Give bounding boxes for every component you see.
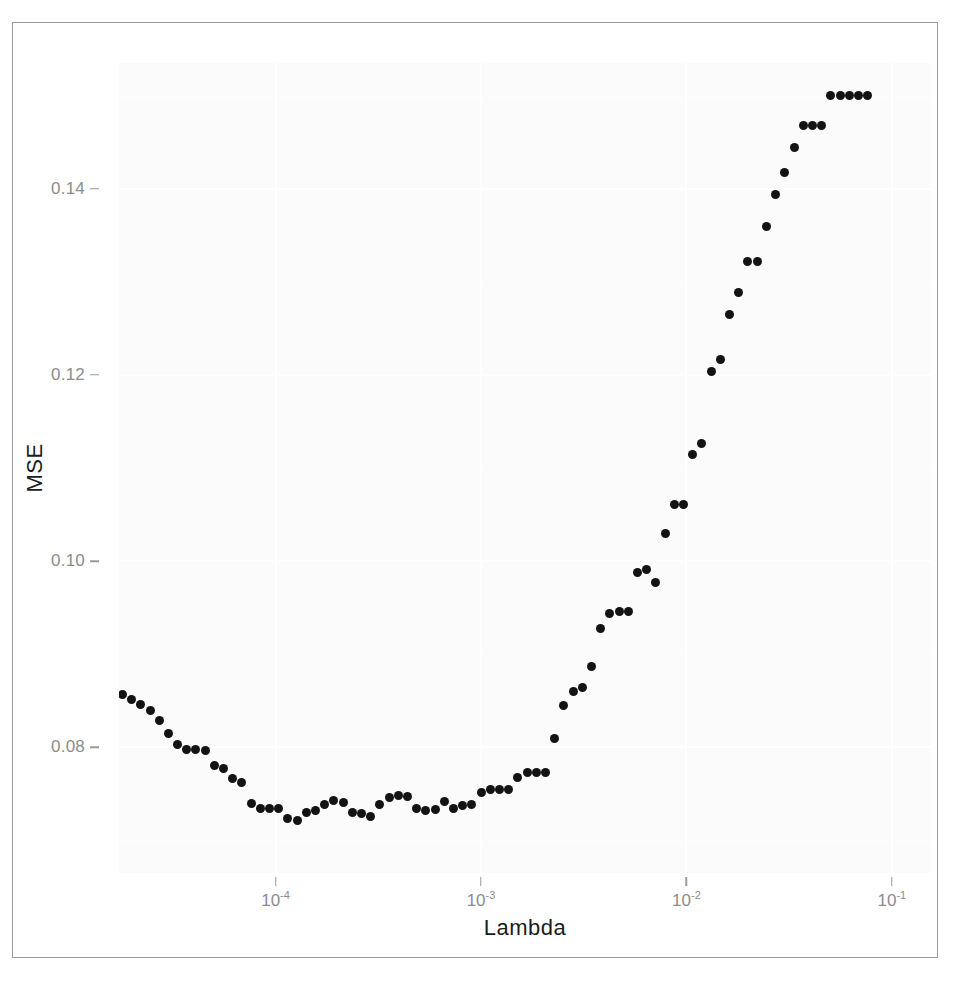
data-point: [164, 729, 173, 738]
data-point: [467, 800, 476, 809]
data-point: [716, 355, 725, 364]
data-point: [780, 168, 789, 177]
data-point: [486, 785, 495, 794]
y-tick-mark: [90, 747, 99, 749]
data-point: [615, 607, 624, 616]
data-point: [477, 788, 486, 797]
x-tick-base: 10: [878, 891, 897, 910]
figure-page: 0.080.100.120.14 MSE 10-410-310-210-1 La…: [0, 0, 956, 1005]
data-point: [421, 806, 430, 815]
data-point: [762, 222, 771, 231]
data-point: [725, 310, 734, 319]
x-tick-label: 10-4: [261, 891, 290, 911]
gridline-y-minor: [119, 468, 931, 469]
gridline-y-major: [119, 374, 931, 376]
data-point: [320, 800, 329, 809]
data-point: [348, 808, 357, 817]
data-point: [541, 768, 550, 777]
data-point: [605, 609, 614, 618]
data-point: [799, 121, 808, 130]
gridline-y-minor: [119, 840, 931, 841]
data-point: [550, 734, 559, 743]
data-point: [633, 568, 642, 577]
data-point: [670, 500, 679, 509]
x-tick-mark: [686, 877, 688, 886]
data-point: [357, 809, 366, 818]
data-point: [808, 121, 817, 130]
gridline-y-minor: [119, 96, 931, 97]
data-point: [688, 450, 697, 459]
gridline-y-major: [119, 560, 931, 562]
data-point: [191, 745, 200, 754]
x-tick-exponent: -4: [280, 889, 290, 901]
data-point: [366, 812, 375, 821]
data-point: [302, 808, 311, 817]
x-tick-base: 10: [261, 891, 280, 910]
gridline-x-major: [275, 63, 277, 873]
data-point: [256, 804, 265, 813]
data-point: [385, 793, 394, 802]
x-tick-exponent: -3: [486, 889, 496, 901]
data-point: [569, 687, 578, 696]
data-point: [201, 746, 210, 755]
data-point: [182, 745, 191, 754]
y-axis-title: MSE: [22, 443, 48, 492]
data-point: [339, 798, 348, 807]
x-tick-label: 10-3: [467, 891, 496, 911]
figure-outer-frame: 0.080.100.120.14 MSE 10-410-310-210-1 La…: [12, 22, 938, 958]
data-point: [697, 439, 706, 448]
data-point: [237, 778, 246, 787]
data-point: [146, 706, 155, 715]
x-tick-label: 10-1: [878, 891, 907, 911]
data-point: [661, 529, 670, 538]
data-point: [743, 257, 752, 266]
data-point: [679, 500, 688, 509]
y-tick-label: 0.14: [51, 179, 85, 199]
y-tick-label: 0.12: [51, 365, 85, 385]
x-tick-mark: [275, 877, 277, 886]
data-point: [513, 773, 522, 782]
data-point: [440, 797, 449, 806]
data-point: [642, 565, 651, 574]
data-point: [412, 804, 421, 813]
gridline-y-major: [119, 188, 931, 190]
data-point: [283, 814, 292, 823]
data-point: [817, 121, 826, 130]
plot-panel: [119, 63, 931, 873]
data-point: [624, 607, 633, 616]
data-point: [329, 796, 338, 805]
data-point: [431, 805, 440, 814]
data-point: [587, 662, 596, 671]
gridline-y-minor: [119, 654, 931, 655]
y-tick-mark: [90, 560, 99, 562]
y-tick-label: 0.10: [51, 551, 85, 571]
gridline-x-major: [480, 63, 482, 873]
data-point: [651, 578, 660, 587]
x-tick-exponent: -2: [691, 889, 701, 901]
plot-area: 0.080.100.120.14 MSE 10-410-310-210-1 La…: [13, 23, 937, 957]
data-point: [127, 695, 136, 704]
x-tick-exponent: -1: [896, 889, 906, 901]
data-point: [173, 740, 182, 749]
data-point: [136, 700, 145, 709]
data-point: [771, 190, 780, 199]
data-point: [753, 257, 762, 266]
data-point: [228, 774, 237, 783]
data-point: [790, 143, 799, 152]
data-point: [449, 804, 458, 813]
data-point: [458, 801, 467, 810]
data-point: [734, 288, 743, 297]
x-tick-base: 10: [467, 891, 486, 910]
data-point: [375, 800, 384, 809]
x-tick-mark: [891, 877, 893, 886]
data-point: [504, 785, 513, 794]
x-tick-label: 10-2: [672, 891, 701, 911]
data-point: [836, 91, 845, 100]
gridline-y-minor: [119, 282, 931, 283]
data-point: [596, 624, 605, 633]
data-point: [265, 804, 274, 813]
y-tick-label: 0.08: [51, 737, 85, 757]
data-point: [155, 716, 164, 725]
y-tick-mark: [90, 188, 99, 190]
data-point: [495, 785, 504, 794]
